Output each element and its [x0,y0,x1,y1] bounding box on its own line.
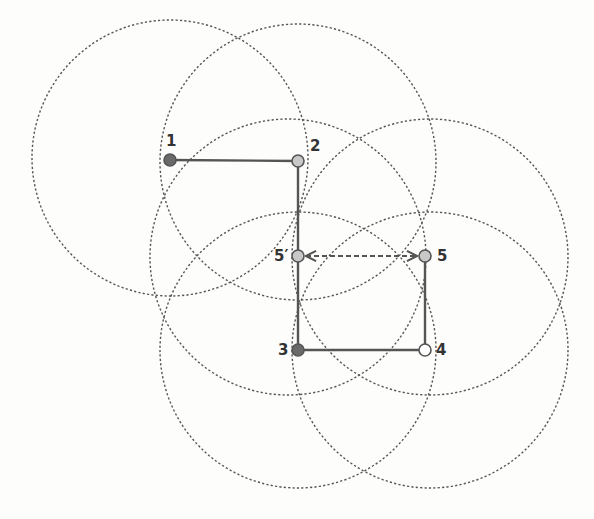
node-label-2: 2 [310,137,320,155]
diagram-canvas: 125′534 [0,0,594,519]
node-3 [292,344,304,356]
node-4 [419,344,431,356]
node-1 [164,154,176,166]
node-5 [419,250,431,262]
node-label-3: 3 [278,341,288,359]
node-2 [292,155,304,167]
node-5p [292,250,304,262]
node-label-1: 1 [166,132,176,150]
node-label-4: 4 [436,341,446,359]
node-label-5: 5 [437,247,447,265]
network-diagram: 125′534 [0,0,594,519]
edge-1-2 [170,160,298,161]
node-label-5p: 5′ [274,247,288,265]
